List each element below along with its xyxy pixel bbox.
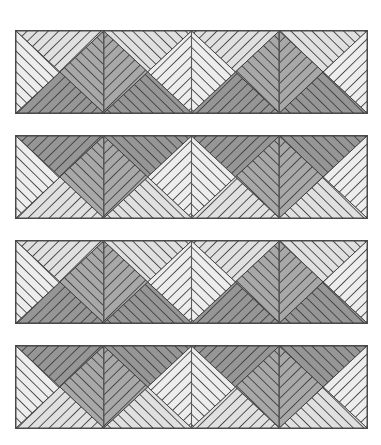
parquet-tile [192,136,280,218]
parquet-tile [104,241,192,323]
parquet-band-band-3 [15,240,368,324]
parquet-tile [279,241,367,323]
parquet-tile [16,346,104,428]
parquet-band-canvas [16,31,367,113]
parquet-band-band-4 [15,345,368,429]
parquet-tile [104,346,192,428]
parquet-band-canvas [16,136,367,218]
parquet-tile [192,346,280,428]
parquet-tile [16,136,104,218]
parquet-band-band-1 [15,30,368,114]
parquet-band-canvas [16,346,367,428]
parquet-tile [192,241,280,323]
parquet-band-canvas [16,241,367,323]
parquet-band-band-2 [15,135,368,219]
parquet-tile [279,136,367,218]
parquet-figure [0,0,381,445]
parquet-tile [279,346,367,428]
parquet-tile [104,136,192,218]
parquet-tile [279,31,367,113]
parquet-tile [192,31,280,113]
parquet-tile [16,241,104,323]
parquet-tile [104,31,192,113]
parquet-tile [16,31,104,113]
